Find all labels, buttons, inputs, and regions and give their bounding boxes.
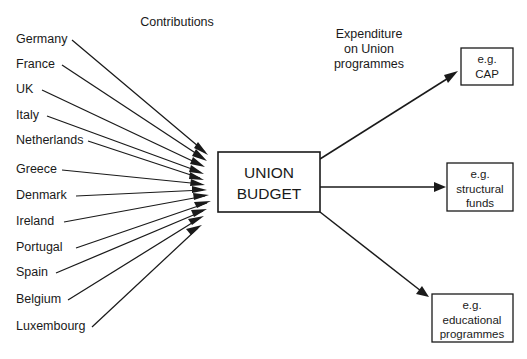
contributor-label-germany: Germany xyxy=(16,32,68,46)
contributor-label-denmark: Denmark xyxy=(16,188,67,202)
outcome-box-structural-funds-line2: structural xyxy=(456,183,503,195)
expenditure-arrowhead-structural-funds xyxy=(434,182,446,192)
heading-expenditure-line1: Expenditure xyxy=(336,27,403,41)
contributor-labels-group: Germany France UK Italy Netherlands Gree… xyxy=(16,32,86,333)
contribution-arrowhead-portugal xyxy=(194,201,211,208)
contribution-line-spain xyxy=(56,211,203,273)
contribution-line-denmark xyxy=(76,190,203,196)
contributor-label-spain: Spain xyxy=(16,265,48,279)
contributor-label-portugal: Portugal xyxy=(16,240,63,254)
contribution-arrowhead-greece xyxy=(190,179,205,186)
contribution-arrowhead-denmark xyxy=(192,186,207,193)
expenditure-line-cap xyxy=(320,77,450,159)
contribution-line-netherlands xyxy=(88,141,200,178)
budget-flow-diagram: Contributions Expenditure on Union progr… xyxy=(0,0,527,359)
contribution-arrowhead-spain xyxy=(191,209,207,217)
contributor-label-luxembourg: Luxembourg xyxy=(16,319,86,333)
union-budget-label-line1: UNION xyxy=(244,164,294,181)
contributor-label-belgium: Belgium xyxy=(16,292,61,306)
contribution-line-luxembourg xyxy=(92,228,198,327)
contribution-line-uk xyxy=(42,90,201,165)
union-budget-label-line2: BUDGET xyxy=(237,185,302,202)
contribution-arrowhead-ireland xyxy=(193,193,209,200)
heading-expenditure-line2: on Union xyxy=(344,42,394,56)
expenditure-arrows-group xyxy=(320,71,458,297)
outcome-box-cap-line1: e.g. xyxy=(477,53,496,65)
contributor-label-ireland: Ireland xyxy=(16,214,54,228)
contributor-label-italy: Italy xyxy=(16,108,40,122)
expenditure-arrowhead-cap xyxy=(444,71,458,83)
contribution-arrowhead-italy xyxy=(189,165,204,174)
contribution-arrows-group xyxy=(42,40,211,327)
contributor-label-netherlands: Netherlands xyxy=(16,133,83,147)
union-budget-box-outline xyxy=(218,152,320,212)
outcome-box-cap-line2: CAP xyxy=(475,68,499,80)
contributor-label-greece: Greece xyxy=(16,162,57,176)
contributor-label-france: France xyxy=(16,57,55,71)
contribution-line-ireland xyxy=(64,196,205,222)
outcome-box-structural-funds-line3: funds xyxy=(466,197,494,209)
diagram-canvas: Contributions Expenditure on Union progr… xyxy=(0,0,527,359)
outcome-box-educational-programmes-line1: e.g. xyxy=(462,299,481,311)
outcome-box-educational-programmes-line2: educational xyxy=(443,314,502,326)
outcome-box-structural-funds: e.g. structural funds xyxy=(447,163,513,211)
contribution-arrowhead-luxembourg xyxy=(186,225,202,235)
outcome-box-educational-programmes-line3: programmes xyxy=(440,328,505,340)
expenditure-arrowhead-educational xyxy=(416,286,429,297)
outcome-box-educational-programmes: e.g. educational programmes xyxy=(432,294,513,342)
heading-contributions: Contributions xyxy=(140,15,214,29)
contributor-label-uk: UK xyxy=(16,82,34,96)
heading-expenditure-line3: programmes xyxy=(334,57,404,71)
union-budget-box: UNION BUDGET xyxy=(218,152,320,212)
outcome-box-cap: e.g. CAP xyxy=(461,48,513,85)
outcome-box-structural-funds-line1: e.g. xyxy=(470,168,489,180)
expenditure-line-educational xyxy=(320,212,421,291)
